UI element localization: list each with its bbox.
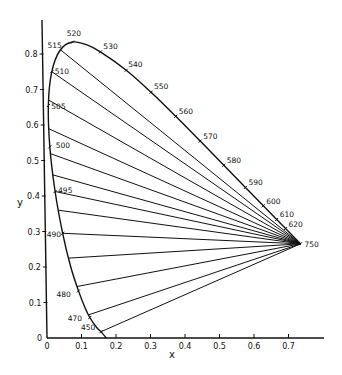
fan-line — [52, 175, 300, 244]
fan-line — [60, 50, 300, 244]
locus-end-segment — [101, 332, 106, 338]
x-tick-label: 0.4 — [179, 342, 192, 351]
wavelength-label-470: 470 — [68, 314, 83, 323]
wavelength-label-520: 520 — [67, 29, 82, 38]
y-axis-line — [42, 20, 47, 338]
y-axis-label: y — [17, 197, 23, 208]
wavelength-labels: 4504704804904955005055105155205305405505… — [47, 29, 319, 333]
wavelength-label-480: 480 — [56, 290, 71, 299]
spectral-locus — [48, 42, 300, 338]
x-tick-label: 0.3 — [144, 342, 157, 351]
wavelength-label-490: 490 — [47, 230, 62, 239]
wavelength-label-530: 530 — [103, 42, 118, 51]
wavelength-label-450: 450 — [81, 323, 96, 332]
wavelength-label-750: 750 — [304, 240, 319, 249]
x-tick-label: 0.1 — [75, 342, 88, 351]
wavelength-label-580: 580 — [227, 156, 242, 165]
wavelength-label-600: 600 — [266, 197, 281, 206]
y-tick-label: 0.4 — [27, 192, 40, 201]
wavelength-label-495: 495 — [58, 186, 73, 195]
wavelength-label-570: 570 — [203, 132, 218, 141]
wavelength-label-550: 550 — [154, 82, 169, 91]
y-tick-label: 0.6 — [26, 121, 39, 130]
fan-lines — [48, 50, 300, 332]
x-tick-label: 0.6 — [248, 342, 261, 351]
x-axis-label: x — [169, 349, 175, 360]
wavelength-label-610: 610 — [280, 210, 295, 219]
fan-line — [49, 100, 301, 244]
wavelength-label-560: 560 — [179, 107, 194, 116]
chromaticity-chart: 00.10.20.30.40.50.60.700.10.20.30.40.50.… — [0, 0, 342, 375]
wavelength-label-505: 505 — [51, 102, 66, 111]
y-tick-label: 0.1 — [29, 299, 42, 308]
y-tick-label: 0.2 — [28, 263, 41, 272]
wavelength-label-500: 500 — [56, 141, 71, 150]
y-tick-label: 0 — [37, 334, 42, 343]
y-tick-label: 0.8 — [25, 50, 38, 59]
x-tick-label: 0 — [44, 342, 49, 351]
y-tick-label: 0.5 — [26, 157, 39, 166]
y-tick-label: 0.3 — [28, 228, 41, 237]
fan-line — [101, 244, 300, 332]
x-tick-label: 0.5 — [213, 342, 226, 351]
wavelength-label-590: 590 — [248, 178, 263, 187]
wavelength-label-515: 515 — [47, 41, 62, 50]
wavelength-label-540: 540 — [128, 60, 143, 69]
fan-line — [52, 72, 301, 244]
x-tick-label: 0.7 — [282, 342, 295, 351]
wavelength-label-510: 510 — [55, 67, 70, 76]
y-tick-label: 0.7 — [25, 86, 38, 95]
wavelength-label-620: 620 — [289, 220, 304, 229]
x-tick-label: 0.2 — [110, 342, 123, 351]
